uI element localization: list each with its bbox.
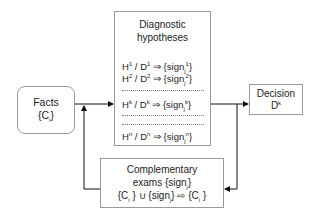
complementary-union-line: {Ci } ∪ {signj} ⇨ {Ci } xyxy=(101,189,223,202)
hypothesis-row-1: H1 / D1 ⇒ {signj1} xyxy=(122,61,192,72)
arrow-complementary-to-facts xyxy=(84,106,100,189)
complementary-exams-line: exams {signj} xyxy=(101,176,223,189)
dotted-separator xyxy=(122,115,204,116)
hypothesis-row-k: Hk / Dk ⇒ {signjk} xyxy=(122,99,191,110)
diagnostic-title: Diagnostic hypotheses xyxy=(115,18,210,44)
dotted-separator xyxy=(122,90,204,91)
hypothesis-row-2: H2 / D2 ⇒ {signj2} xyxy=(122,73,192,84)
dotted-separator xyxy=(122,124,204,125)
facts-set: {Ci} xyxy=(18,109,74,122)
diagnostic-hypotheses-box: Diagnostic hypotheses H1 / D1 ⇒ {signj1}… xyxy=(114,11,211,146)
decision-title: Decision xyxy=(250,88,302,100)
complementary-exams-box: Complementary exams {signj} {Ci } ∪ {sig… xyxy=(100,158,224,208)
complementary-title: Complementary xyxy=(101,163,223,176)
facts-title: Facts xyxy=(18,96,74,109)
facts-box: Facts {Ci} xyxy=(17,86,75,134)
arrow-to-complementary xyxy=(225,104,237,189)
hypothesis-row-n: Hn / Dn ⇒ {signjn} xyxy=(122,131,192,142)
decision-value: Dk xyxy=(250,100,302,112)
decision-box: Decision Dk xyxy=(249,84,303,115)
